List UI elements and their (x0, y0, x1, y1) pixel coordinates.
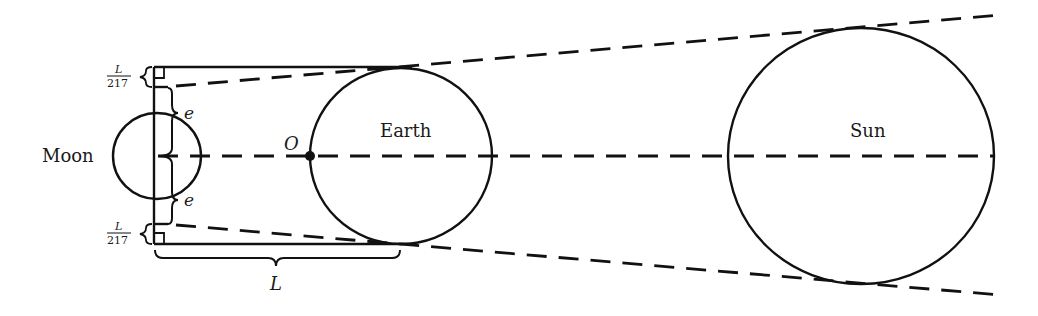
frac-top-numerator: L (114, 63, 122, 76)
point-o-dot (305, 151, 315, 161)
frac-bottom-denominator: 217 (107, 234, 128, 247)
moon-label: Moon (42, 145, 94, 166)
top-right-angle-mark (154, 67, 164, 78)
point-o-label: O (284, 133, 299, 154)
l-bottom-label: L (269, 273, 282, 294)
frac-bottom-numerator: L (114, 220, 122, 233)
top-dashed-tangent (176, 15, 1000, 86)
brace-e-bottom (158, 156, 178, 224)
earth-label: Earth (380, 120, 432, 141)
moon-circle (113, 113, 201, 199)
moon-earth-sun-diagram: Moon Earth Sun O e e L L 217 L 217 (0, 0, 1038, 316)
frac-top-denominator: 217 (107, 77, 128, 90)
brace-l-bottom (155, 250, 400, 266)
sun-label: Sun (850, 120, 886, 141)
brace-e-top (158, 88, 178, 156)
bottom-right-angle-mark (154, 233, 164, 244)
brace-frac-top (140, 67, 152, 87)
e-top-label: e (184, 103, 194, 123)
brace-frac-bottom (140, 224, 152, 244)
bottom-dashed-tangent (176, 225, 1000, 295)
e-bottom-label: e (184, 190, 194, 210)
